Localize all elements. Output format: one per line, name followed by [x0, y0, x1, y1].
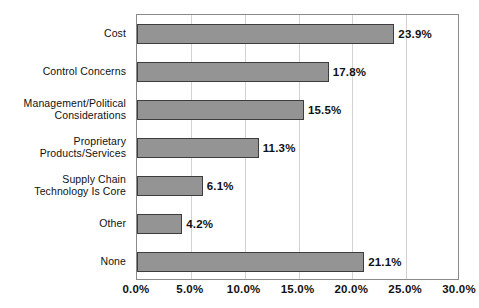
bar-value-label: 11.3% — [263, 138, 296, 158]
bar-value-label: 23.9% — [398, 24, 432, 44]
bar — [137, 100, 304, 120]
x-tick-label: 25.0% — [388, 283, 422, 295]
x-tick-label: 20.0% — [335, 283, 369, 295]
category-label: Management/Political Considerations — [0, 97, 126, 122]
gridline — [406, 15, 407, 279]
bar — [137, 62, 329, 82]
bar-value-label: 6.1% — [207, 176, 234, 196]
category-label: Cost — [0, 27, 126, 40]
bar-value-label: 4.2% — [186, 214, 213, 234]
bar-chart: CostControl ConcernsManagement/Political… — [0, 0, 479, 308]
x-tick-label: 0.0% — [122, 283, 149, 295]
x-tick-label: 10.0% — [227, 283, 261, 295]
bar-value-label: 15.5% — [308, 100, 342, 120]
bar — [137, 176, 203, 196]
gridline — [299, 15, 300, 279]
category-axis-labels: CostControl ConcernsManagement/Political… — [0, 14, 131, 280]
category-label: Supply Chain Technology Is Core — [0, 173, 126, 198]
category-label: None — [0, 255, 126, 268]
bar — [137, 252, 364, 272]
x-tick-label: 15.0% — [281, 283, 315, 295]
x-tick-label: 5.0% — [176, 283, 203, 295]
x-axis-tick-labels: 0.0%5.0%10.0%15.0%20.0%25.0%30.0% — [136, 283, 459, 303]
bar — [137, 138, 259, 158]
bar-value-label: 17.8% — [333, 62, 367, 82]
category-label: Other — [0, 217, 126, 230]
category-label: Proprietary Products/Services — [0, 135, 126, 160]
bar — [137, 214, 182, 234]
plot-area: 23.9%17.8%15.5%11.3%6.1%4.2%21.1% — [136, 14, 459, 280]
bar-value-label: 21.1% — [368, 252, 402, 272]
x-tick-label: 30.0% — [442, 283, 476, 295]
gridline — [352, 15, 353, 279]
category-label: Control Concerns — [0, 65, 126, 78]
bar — [137, 24, 394, 44]
